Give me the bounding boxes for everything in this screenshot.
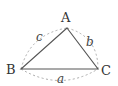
vertex-label-c: C <box>101 63 111 78</box>
vertex-label-a: A <box>60 10 71 25</box>
side-label-c: c <box>36 30 43 44</box>
side-label-a: a <box>57 72 64 86</box>
triangle-svg: A B C c b a <box>0 0 118 86</box>
triangle-diagram: A B C c b a <box>0 0 118 86</box>
side-label-b: b <box>86 35 94 49</box>
vertex-label-b: B <box>6 62 16 77</box>
